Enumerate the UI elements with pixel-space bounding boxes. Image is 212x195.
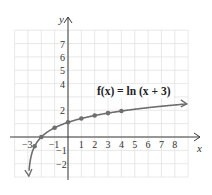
- y-tick-label: 5: [60, 65, 65, 76]
- data-point: [106, 111, 111, 116]
- y-tick-label: 7: [60, 39, 65, 50]
- data-point: [66, 120, 71, 125]
- x-tick-label: 4: [119, 139, 124, 150]
- x-tick-label: 5: [132, 139, 137, 150]
- function-label: f(x) = ln (x + 3): [97, 85, 171, 98]
- data-point: [39, 135, 44, 140]
- x-tick-label: 3: [106, 139, 111, 150]
- x-tick-labels: −3−112345678: [22, 139, 177, 150]
- data-point: [119, 109, 124, 114]
- x-tick-label: 8: [172, 139, 177, 150]
- grid: [15, 30, 189, 177]
- data-point: [52, 125, 57, 130]
- x-tick-label: −3: [22, 139, 33, 150]
- y-tick-label: −1: [56, 145, 67, 156]
- x-tick-label: 6: [146, 139, 151, 150]
- y-tick-label: 4: [60, 79, 65, 90]
- data-point: [32, 144, 37, 149]
- x-tick-label: 7: [159, 139, 164, 150]
- y-tick-label: 6: [60, 52, 65, 63]
- data-point: [92, 113, 97, 118]
- x-axis-label: x: [196, 142, 202, 154]
- log-function-graph: y x −3−112345678 −2−124567 f(x) = ln (x …: [0, 0, 212, 195]
- x-tick-label: 2: [92, 139, 97, 150]
- y-tick-label: −2: [56, 159, 67, 170]
- y-tick-label: 2: [60, 105, 65, 116]
- x-tick-label: 1: [79, 139, 84, 150]
- data-point: [79, 116, 84, 121]
- y-axis-label: y: [58, 13, 64, 25]
- y-tick-labels: −2−124567: [56, 39, 67, 170]
